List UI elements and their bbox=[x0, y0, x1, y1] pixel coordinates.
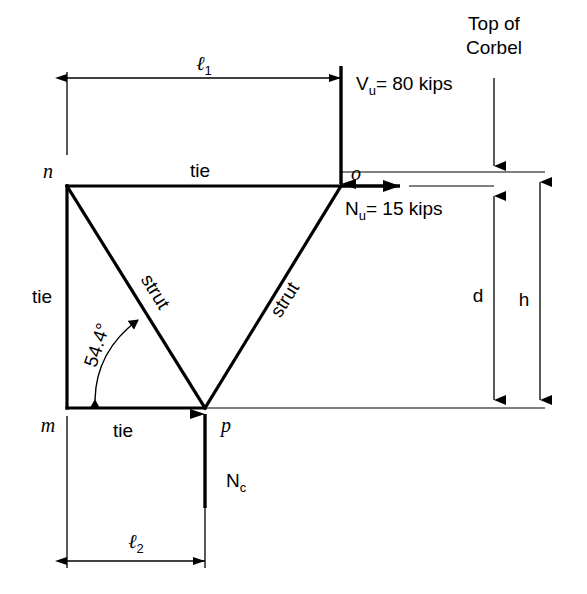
dimension-label-l1: ℓ1 bbox=[196, 52, 212, 78]
dimension-label-d: d bbox=[473, 285, 484, 306]
node-label-o: o bbox=[351, 162, 361, 184]
load-label-nu: Nu= 15 kips bbox=[345, 198, 443, 223]
member-label-tie-bottom: tie bbox=[113, 420, 133, 441]
angle-label: 54.4° bbox=[80, 321, 114, 370]
node-label-p: p bbox=[219, 414, 231, 437]
top-of-corbel-label-line2: Corbel bbox=[466, 37, 522, 58]
load-label-vu-value: = 80 kips bbox=[376, 73, 453, 94]
load-label-nc-symbol: N bbox=[226, 470, 240, 491]
load-label-nu-value: = 15 kips bbox=[366, 198, 443, 219]
node-label-m: m bbox=[41, 414, 55, 436]
member-strut-n-p bbox=[67, 186, 205, 408]
dimension-label-l1-subscript: 1 bbox=[205, 63, 212, 78]
load-label-vu-subscript: u bbox=[369, 83, 376, 98]
load-label-vu-symbol: V bbox=[356, 73, 369, 94]
load-label-nu-symbol: N bbox=[345, 198, 359, 219]
dimension-label-h: h bbox=[519, 289, 530, 310]
load-label-nc-subscript: c bbox=[240, 480, 247, 495]
member-label-tie-left: tie bbox=[32, 286, 52, 307]
member-label-tie-top: tie bbox=[190, 160, 210, 181]
load-label-nu-subscript: u bbox=[359, 208, 366, 223]
load-label-nc: Nc bbox=[226, 470, 247, 495]
member-label-strut-right: strut bbox=[266, 278, 304, 321]
top-of-corbel-label-line1: Top of bbox=[468, 13, 520, 34]
figure-root: n o m p tie tie tie strut strut 54.4° Vu… bbox=[0, 0, 587, 594]
corbel-strut-and-tie-diagram: n o m p tie tie tie strut strut 54.4° Vu… bbox=[0, 0, 587, 594]
node-label-n: n bbox=[43, 160, 53, 182]
dimension-label-l2-subscript: 2 bbox=[137, 541, 144, 556]
dimension-label-l2: ℓ2 bbox=[128, 530, 144, 556]
load-label-vu: Vu= 80 kips bbox=[356, 73, 453, 98]
